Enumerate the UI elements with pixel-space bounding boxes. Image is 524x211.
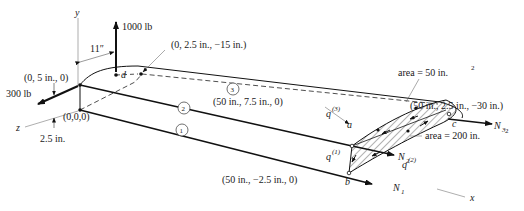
svg-text:c: c	[452, 118, 457, 129]
origin-coord: (0,0,0)	[63, 111, 90, 123]
svg-text:(50 in., 7.5 in., 0): (50 in., 7.5 in., 0)	[213, 96, 283, 108]
svg-text:y: y	[74, 7, 80, 18]
wing-box-diagram: y z x 1000 lb 11″ 2 N 2 1 N 1	[0, 0, 524, 211]
svg-text:2.5 in.: 2.5 in.	[40, 133, 65, 144]
svg-text:1: 1	[180, 127, 184, 135]
svg-text:(0, 2.5 in., −15 in.): (0, 2.5 in., −15 in.)	[171, 39, 246, 51]
svg-text:1000 lb: 1000 lb	[122, 21, 152, 32]
svg-text:x: x	[469, 192, 475, 203]
height-dimension: 2.5 in.	[40, 118, 65, 144]
vertical-force-arrow: 1000 lb	[116, 21, 152, 72]
svg-text:1: 1	[401, 188, 405, 196]
shear-flow-2: q (2)	[402, 156, 417, 170]
point-a: a	[347, 119, 352, 130]
svg-text:b: b	[345, 176, 350, 187]
svg-text:z: z	[15, 122, 20, 133]
svg-text:11″: 11″	[90, 43, 104, 54]
svg-text:2: 2	[471, 64, 475, 72]
shear-flow-1: q (1)	[326, 148, 341, 162]
svg-text:q: q	[402, 159, 407, 170]
svg-text:N: N	[392, 182, 401, 193]
svg-text:2: 2	[505, 127, 509, 135]
x-axis: x	[437, 189, 475, 203]
d-coord-leader: (0, 2.5 in., −15 in.)	[143, 39, 246, 72]
area-upper-label: area = 50 in. 2	[398, 64, 475, 102]
svg-text:area = 50 in.: area = 50 in.	[398, 67, 448, 78]
point-b: b	[345, 176, 350, 187]
svg-text:q: q	[326, 151, 331, 162]
point-c: c	[452, 118, 457, 129]
svg-text:300 lb: 300 lb	[6, 88, 31, 99]
horizontal-force-arrow: 300 lb	[6, 83, 78, 104]
svg-text:2: 2	[182, 105, 186, 113]
b-coord: (50 in., −2.5 in., 0)	[222, 174, 297, 186]
y-axis: y	[74, 7, 80, 86]
svg-text:area = 200 in.: area = 200 in.	[425, 130, 480, 141]
offset-dimension: 11″	[80, 43, 114, 62]
svg-text:a: a	[347, 119, 352, 130]
svg-text:N: N	[493, 120, 502, 131]
svg-text:(3): (3)	[332, 105, 341, 113]
c-coord: (50 in., 2.5 in., −30 in.)	[410, 100, 503, 112]
svg-text:(1): (1)	[332, 148, 341, 156]
svg-text:q: q	[326, 108, 331, 119]
svg-text:3: 3	[231, 86, 235, 94]
svg-text:(2): (2)	[408, 156, 417, 164]
top-front-coord: (0, 5 in., 0)	[24, 72, 68, 84]
